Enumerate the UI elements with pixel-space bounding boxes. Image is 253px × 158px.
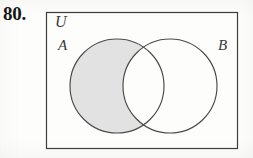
figure-page: 80. [0,0,253,158]
venn-diagram: U A B [0,0,253,158]
venn-diagram-svg [0,0,253,158]
set-a-label: A [58,38,67,53]
set-b-label: B [218,38,227,53]
universal-set-label: U [55,14,67,29]
